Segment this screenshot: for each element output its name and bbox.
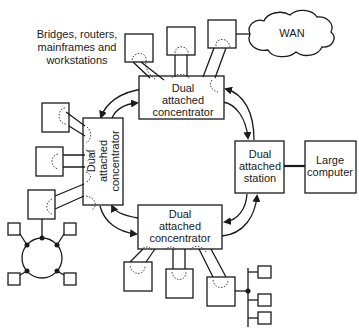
device-box	[207, 277, 235, 306]
caption-line-3: workstations	[45, 54, 108, 66]
ring-terminal	[64, 223, 76, 235]
caption-line-2: mainframes and	[38, 41, 117, 53]
svg-text:attached: attached	[159, 220, 201, 232]
bus-terminal	[258, 294, 271, 306]
svg-text:Dual: Dual	[169, 208, 192, 220]
device-box	[28, 190, 55, 219]
svg-text:concentrator: concentrator	[152, 106, 213, 118]
bottom-attached-devices	[124, 246, 235, 306]
svg-text:attached: attached	[97, 140, 109, 182]
svg-text:station: station	[244, 172, 276, 184]
device-box	[125, 34, 153, 62]
svg-text:computer: computer	[307, 166, 353, 178]
bus-terminal	[258, 312, 271, 324]
device-box	[166, 269, 193, 298]
ring-terminal	[8, 223, 20, 235]
ring-terminal	[64, 273, 76, 285]
svg-text:attached: attached	[239, 160, 281, 172]
device-caption: Bridges, routers, mainframes and worksta…	[37, 28, 118, 66]
bus-subnetwork	[235, 266, 271, 327]
ring-terminal	[8, 273, 20, 285]
wan-cloud: WAN	[236, 10, 334, 56]
svg-text:Dual: Dual	[249, 148, 272, 160]
svg-text:attached: attached	[162, 94, 204, 106]
device-box	[167, 27, 195, 55]
svg-text:Large: Large	[316, 154, 344, 166]
caption-line-1: Bridges, routers,	[37, 28, 118, 40]
device-box	[208, 20, 236, 48]
top-concentrator: Dual attached concentrator	[139, 76, 224, 119]
svg-text:concentrator: concentrator	[149, 232, 210, 244]
svg-text:Dual: Dual	[85, 150, 97, 173]
left-concentrator: Dual attached concentrator	[83, 118, 123, 205]
device-box	[42, 103, 69, 132]
device-box	[124, 262, 152, 291]
wan-label: WAN	[279, 27, 304, 39]
device-box	[36, 147, 63, 176]
fddi-network-diagram: Bridges, routers, mainframes and worksta…	[0, 0, 359, 331]
svg-text:Dual: Dual	[172, 82, 195, 94]
bottom-concentrator: Dual attached concentrator	[138, 205, 222, 249]
bus-terminal	[258, 266, 271, 278]
ring-subnetwork	[8, 219, 76, 285]
svg-text:concentrator: concentrator	[109, 130, 121, 191]
large-computer: Large computer	[305, 141, 356, 193]
dual-attached-station: Dual attached station	[235, 141, 284, 193]
